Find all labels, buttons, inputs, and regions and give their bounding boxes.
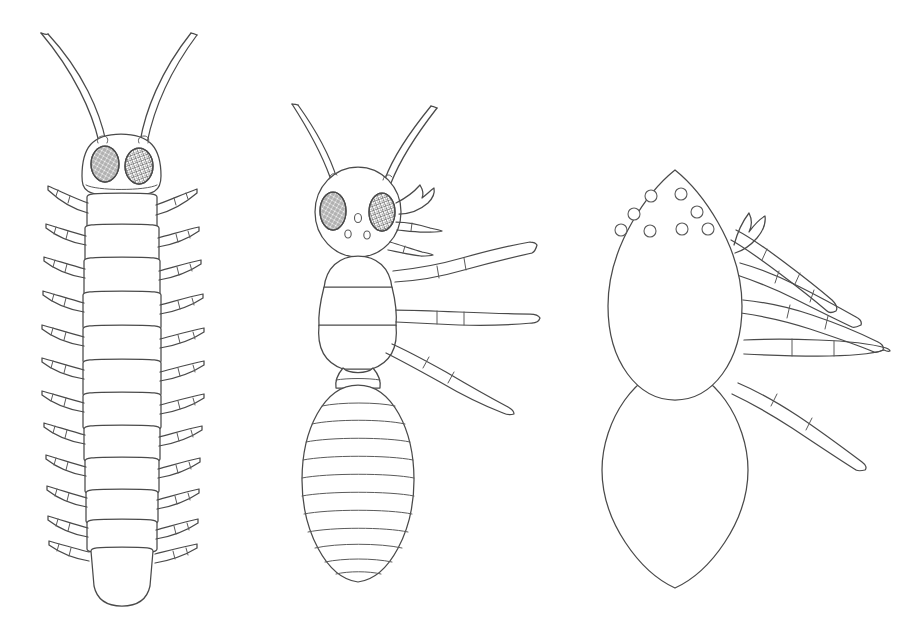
centipede-body-segments bbox=[83, 193, 161, 606]
spider-eye-3 bbox=[628, 208, 640, 220]
spider-eye-5 bbox=[615, 224, 627, 236]
spider-eye-8 bbox=[702, 223, 714, 235]
line-art-svg bbox=[0, 0, 898, 644]
drawing-canvas bbox=[0, 0, 898, 644]
spider-eye-1 bbox=[645, 190, 657, 202]
spider-eye-6 bbox=[644, 225, 656, 237]
spider-eye-4 bbox=[691, 206, 703, 218]
spider-eye-7 bbox=[676, 223, 688, 235]
spider-eye-2 bbox=[675, 188, 687, 200]
